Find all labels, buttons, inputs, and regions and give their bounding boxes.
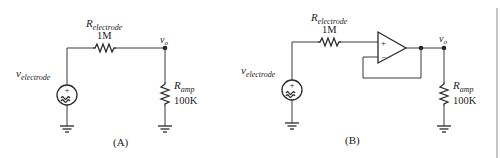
label-v-electrode-a: velectrode bbox=[16, 67, 51, 82]
opamp-icon: + − bbox=[378, 32, 406, 63]
ac-voltage-source-icon: + bbox=[57, 85, 77, 105]
label-r-amp-b: Ramp bbox=[452, 79, 474, 94]
wire-b-feedback bbox=[363, 48, 421, 78]
wire-a-left bbox=[67, 48, 93, 85]
opamp-minus-sign: − bbox=[381, 52, 386, 62]
ground-icon bbox=[60, 126, 74, 132]
label-r-amp-a: Ramp bbox=[173, 79, 195, 94]
circuit-a: + Relectrode 1M vo Ramp 100K velectrode … bbox=[16, 17, 198, 149]
ground-icon bbox=[437, 126, 451, 132]
label-vo-a: vo bbox=[160, 34, 168, 47]
circuit-figure: + Relectrode 1M vo Ramp 100K velectrode … bbox=[0, 0, 501, 158]
resistor-electrode-a bbox=[93, 44, 116, 52]
value-1m-a: 1M bbox=[97, 30, 112, 41]
circuit-b: + − + Relectrode bbox=[241, 11, 477, 147]
caption-b: (B) bbox=[345, 134, 360, 147]
resistor-amp-b bbox=[440, 82, 448, 106]
wire-b-left bbox=[292, 42, 318, 80]
value-1m-b: 1M bbox=[322, 24, 337, 35]
source-polarity-a: + bbox=[64, 85, 69, 95]
opamp-plus-sign: + bbox=[381, 38, 386, 48]
label-v-electrode-b: velectrode bbox=[241, 64, 276, 79]
caption-a: (A) bbox=[113, 136, 129, 149]
ground-icon bbox=[285, 123, 299, 129]
ac-voltage-source-icon: + bbox=[282, 80, 302, 100]
value-100k-b: 100K bbox=[453, 95, 477, 106]
label-vo-b: vo bbox=[439, 33, 447, 46]
resistor-amp-a bbox=[161, 82, 169, 106]
resistor-electrode-b bbox=[318, 38, 341, 46]
ground-icon bbox=[158, 126, 172, 132]
value-100k-a: 100K bbox=[174, 95, 198, 106]
source-polarity-b: + bbox=[289, 80, 294, 90]
